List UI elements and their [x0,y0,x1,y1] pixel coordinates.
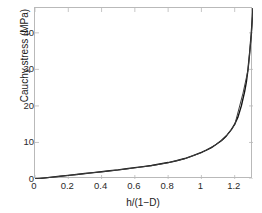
figure-cauchy-stress-plot: Cauchy stress (MPa) 0 10 20 30 40 0 0.2 … [0,0,262,213]
series-line [35,9,253,179]
y-axis-label: Cauchy stress (MPa) [19,0,30,136]
plot-area [34,7,252,178]
plot-canvas [35,8,253,179]
y-axis-ticks [35,33,253,179]
x-tick-label: 0 [19,181,49,191]
x-axis-ticks [35,8,235,179]
x-tick-label: 1 [186,181,216,191]
data-series-group [35,8,253,179]
series-line [35,8,253,179]
y-tick-label: 0 [8,174,34,184]
x-tick-label: 1.2 [219,181,249,191]
x-tick-label: 0.2 [52,181,82,191]
x-axis-label: h/(1−D) [34,197,252,208]
x-tick-label: 0.6 [119,181,149,191]
x-tick-label: 0.4 [86,181,116,191]
y-tick-label: 10 [8,137,34,147]
x-tick-label: 0.8 [152,181,182,191]
